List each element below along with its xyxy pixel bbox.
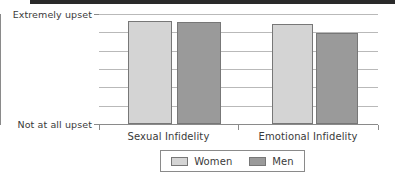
chart-legend: Women Men xyxy=(160,150,305,172)
x-axis-tick-right xyxy=(378,125,379,130)
bar-chart-figure: Extremely upset Not at all upset Sexual … xyxy=(0,0,395,184)
bar-women-emotional-infidelity xyxy=(272,24,313,124)
x-axis-tick-left xyxy=(99,125,100,130)
legend-label-men: Men xyxy=(272,156,293,167)
legend-swatch-men-icon xyxy=(249,157,266,166)
x-axis-label-emotional-infidelity: Emotional Infidelity xyxy=(238,131,378,142)
y-axis-tick-top xyxy=(94,14,99,15)
y-axis-line xyxy=(0,14,1,125)
legend-entry-women: Women xyxy=(171,156,232,167)
bar-men-sexual-infidelity xyxy=(177,22,221,124)
page-scan-band xyxy=(30,0,395,4)
gridline-1 xyxy=(99,14,378,15)
y-axis-label-bottom-wrap: Not at all upset xyxy=(0,119,92,131)
bar-women-sexual-infidelity xyxy=(128,21,172,124)
y-axis-label-not-at-all-upset: Not at all upset xyxy=(17,119,92,130)
plot-area xyxy=(99,14,378,124)
y-axis-label-top-wrap: Extremely upset xyxy=(0,9,92,21)
legend-label-women: Women xyxy=(194,156,232,167)
legend-entry-men: Men xyxy=(249,156,293,167)
x-axis-tick-middle xyxy=(238,125,239,130)
x-axis-label-sexual-infidelity: Sexual Infidelity xyxy=(99,131,238,142)
bar-men-emotional-infidelity xyxy=(316,33,358,124)
y-axis-label-extremely-upset: Extremely upset xyxy=(13,9,92,20)
legend-swatch-women-icon xyxy=(171,157,188,166)
